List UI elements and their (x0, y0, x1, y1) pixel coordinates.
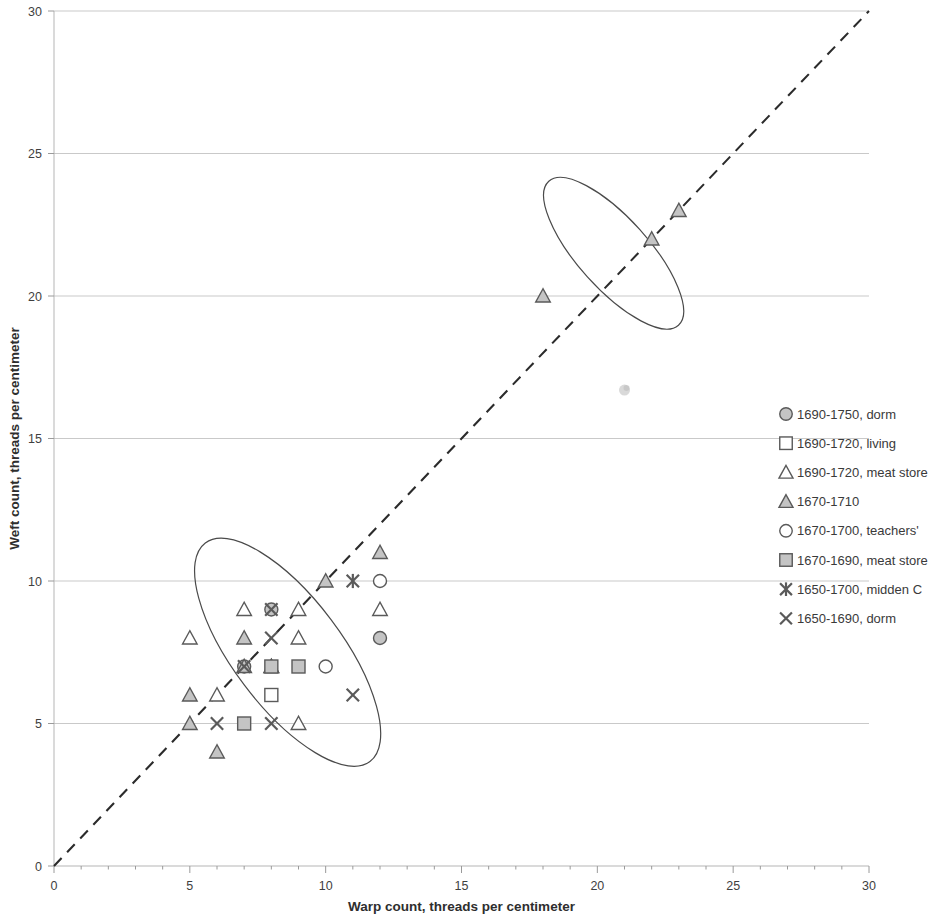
data-markers (183, 203, 687, 758)
axis-titles: Warp count, threads per centimeterWeft c… (7, 326, 576, 914)
legend-marker-icon (779, 465, 793, 478)
datapoint (536, 289, 551, 302)
x-tick-label-30: 30 (862, 879, 876, 893)
faint-smudge-artifact-core (624, 385, 630, 391)
legend-marker-icon (780, 525, 793, 538)
datapoint (319, 660, 332, 673)
x-tick-label-25: 25 (726, 879, 740, 893)
datapoint (373, 545, 388, 558)
series-0 (238, 603, 387, 673)
datapoint (183, 716, 198, 729)
x-tick-label-10: 10 (319, 879, 333, 893)
x-tick-label-20: 20 (590, 879, 604, 893)
y-tick-label-20: 20 (28, 290, 42, 304)
datapoint (374, 632, 387, 645)
cluster-ellipses (162, 158, 705, 795)
legend-item-0[interactable]: 1690-1750, dorm (780, 407, 896, 422)
datapoint (237, 631, 252, 644)
x-tick-label-15: 15 (455, 879, 469, 893)
legend-item-label: 1670-1690, meat store (797, 553, 928, 568)
legend-item-label: 1670-1710 (797, 494, 859, 509)
datapoint (374, 575, 387, 588)
datapoint (373, 602, 388, 615)
y-tick-label-10: 10 (28, 575, 42, 589)
legend: 1690-1750, dorm1690-1720, living1690-172… (779, 407, 928, 626)
series-3 (183, 203, 687, 758)
legend-item-6[interactable]: 1650-1700, midden C (780, 582, 922, 597)
plot-area: 051015202530051015202530 Warp count, thr… (0, 0, 952, 921)
legend-marker-icon (780, 612, 792, 624)
legend-item-label: 1690-1720, meat store (797, 465, 928, 480)
legend-marker-icon (780, 408, 793, 421)
upper-cluster-ellipse (523, 158, 705, 349)
legend-item-2[interactable]: 1690-1720, meat store (779, 465, 928, 480)
datapoint (265, 632, 277, 644)
faint-smudge-artifact (619, 385, 630, 396)
legend-marker-icon (780, 437, 793, 450)
legend-item-5[interactable]: 1670-1690, meat store (780, 553, 928, 568)
datapoint (237, 602, 252, 615)
legend-marker-icon (779, 495, 793, 508)
y-tick-label-15: 15 (28, 432, 42, 446)
datapoint (265, 689, 278, 702)
datapoint (210, 745, 225, 758)
legend-item-label: 1650-1700, midden C (797, 582, 922, 597)
legend-item-7[interactable]: 1650-1690, dorm (780, 611, 896, 626)
y-axis-title: Weft count, threads per centimeter (7, 326, 22, 549)
series-2 (183, 602, 388, 729)
legend-item-label: 1690-1750, dorm (797, 407, 896, 422)
datapoint (347, 689, 359, 701)
y-tick-label-5: 5 (35, 717, 42, 731)
legend-marker-icon (780, 554, 793, 567)
datapoint (238, 717, 251, 730)
legend-item-label: 1670-1700, teachers' (797, 523, 919, 538)
legend-marker-icon (780, 582, 792, 596)
y-tick-label-25: 25 (28, 147, 42, 161)
legend-item-label: 1690-1720, living (797, 436, 896, 451)
datapoint (644, 232, 659, 245)
legend-item-label: 1650-1690, dorm (797, 611, 896, 626)
series-7 (211, 603, 359, 729)
y-tick-label-30: 30 (28, 5, 42, 19)
legend-item-4[interactable]: 1670-1700, teachers' (780, 523, 919, 538)
x-tick-label-0: 0 (51, 879, 58, 893)
legend-item-1[interactable]: 1690-1720, living (780, 436, 896, 451)
datapoint (183, 631, 198, 644)
datapoint (265, 660, 278, 673)
datapoint (291, 631, 306, 644)
y-tick-label-0: 0 (35, 860, 42, 874)
legend-item-3[interactable]: 1670-1710 (779, 494, 859, 509)
series-1 (265, 689, 278, 702)
x-tick-marks (48, 11, 869, 873)
datapoint (291, 716, 306, 729)
gridlines (54, 11, 869, 724)
scatter-chart: 051015202530051015202530 Warp count, thr… (0, 0, 952, 921)
datapoint (292, 660, 305, 673)
series-4 (319, 575, 386, 674)
x-tick-label-5: 5 (186, 879, 193, 893)
datapoint (183, 688, 198, 701)
datapoint (210, 688, 225, 701)
x-axis-title: Warp count, threads per centimeter (348, 899, 576, 914)
